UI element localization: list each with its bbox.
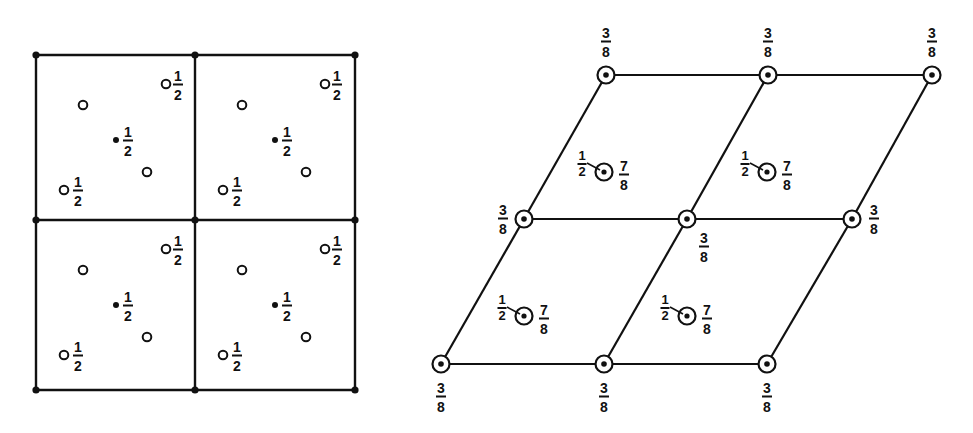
fraction-denominator: 2	[578, 166, 585, 178]
height-fraction-label: 12	[123, 290, 133, 323]
height-fraction-label: 12	[123, 125, 133, 158]
fraction-bar	[599, 396, 609, 398]
fraction-bar	[73, 190, 83, 192]
fraction-bar	[702, 318, 712, 320]
node-center-dot-icon	[438, 361, 444, 367]
node-center-dot-icon	[929, 72, 935, 78]
fraction-denominator: 8	[620, 178, 628, 192]
fraction-bar	[73, 355, 83, 357]
fraction-numerator: 3	[870, 203, 878, 217]
lattice-edge	[687, 75, 768, 219]
fraction-numerator: 7	[703, 303, 711, 317]
lattice-edge	[441, 219, 524, 364]
fraction-numerator: 1	[283, 290, 291, 304]
center-right-fraction-label: 78	[619, 159, 629, 192]
fraction-numerator: 1	[233, 175, 241, 189]
fraction-bar	[282, 305, 292, 307]
center-dot-icon	[521, 313, 526, 318]
center-left-fraction-label: 12	[741, 150, 750, 178]
fraction-numerator: 3	[499, 203, 507, 217]
lattice-edge	[767, 219, 852, 364]
height-fraction-label: 12	[282, 125, 292, 158]
fraction-bar	[539, 318, 549, 320]
fraction-denominator: 8	[764, 45, 772, 59]
fraction-denominator: 8	[870, 222, 878, 236]
fraction-numerator: 1	[741, 150, 748, 162]
fraction-numerator: 3	[700, 231, 708, 245]
fraction-numerator: 7	[620, 159, 628, 173]
fraction-bar	[173, 249, 183, 251]
fraction-bar	[232, 355, 242, 357]
fraction-denominator: 2	[333, 88, 341, 102]
height-fraction-label: 12	[173, 234, 183, 267]
height-fraction-label: 12	[173, 69, 183, 102]
fraction-denominator: 8	[499, 222, 507, 236]
fraction-numerator: 3	[764, 26, 772, 40]
height-fraction-label: 12	[232, 340, 242, 373]
node-height-fraction-label: 38	[498, 203, 508, 236]
fraction-numerator: 1	[174, 69, 182, 83]
center-left-fraction-label: 12	[578, 150, 587, 178]
rhombic-lattice-diagram	[0, 0, 973, 433]
height-fraction-label: 12	[73, 175, 83, 208]
node-center-dot-icon	[603, 72, 609, 78]
height-fraction-label: 12	[332, 234, 342, 267]
height-fraction-label: 12	[282, 290, 292, 323]
node-height-fraction-label: 38	[869, 203, 879, 236]
fraction-denominator: 8	[763, 400, 771, 414]
center-right-fraction-label: 78	[539, 303, 549, 336]
fraction-bar	[123, 140, 133, 142]
fraction-bar	[282, 140, 292, 142]
fraction-denominator: 8	[700, 250, 708, 264]
height-fraction-label: 12	[73, 340, 83, 373]
node-center-dot-icon	[601, 361, 607, 367]
fraction-bar	[436, 396, 446, 398]
fraction-bar	[782, 174, 792, 176]
node-center-dot-icon	[684, 216, 690, 222]
fraction-numerator: 1	[578, 150, 585, 162]
fraction-numerator: 1	[74, 175, 82, 189]
center-left-fraction-label: 12	[661, 294, 670, 322]
node-height-fraction-label: 38	[436, 381, 446, 414]
node-center-dot-icon	[765, 72, 771, 78]
lattice-edge	[852, 75, 932, 219]
crystal-lattice-figure: 1212121212121212121212123838383838383838…	[0, 0, 973, 433]
fraction-denominator: 2	[283, 309, 291, 323]
fraction-numerator: 1	[74, 340, 82, 354]
lattice-edge	[604, 219, 687, 364]
fraction-denominator: 8	[540, 322, 548, 336]
fraction-numerator: 7	[540, 303, 548, 317]
fraction-numerator: 1	[283, 125, 291, 139]
fraction-denominator: 8	[437, 400, 445, 414]
fraction-numerator: 3	[602, 26, 610, 40]
lattice-edge	[524, 75, 606, 219]
fraction-bar	[762, 396, 772, 398]
center-dot-icon	[684, 313, 689, 318]
fraction-denominator: 2	[174, 88, 182, 102]
fraction-denominator: 2	[74, 194, 82, 208]
node-center-dot-icon	[764, 361, 770, 367]
fraction-denominator: 2	[283, 144, 291, 158]
fraction-numerator: 3	[437, 381, 445, 395]
center-dot-icon	[601, 169, 606, 174]
fraction-denominator: 2	[233, 194, 241, 208]
node-height-fraction-label: 38	[762, 381, 772, 414]
fraction-denominator: 2	[661, 310, 668, 322]
fraction-bar	[601, 41, 611, 43]
node-center-dot-icon	[521, 216, 527, 222]
fraction-bar	[332, 249, 342, 251]
fraction-numerator: 1	[498, 294, 505, 306]
fraction-denominator: 8	[602, 45, 610, 59]
fraction-numerator: 1	[333, 234, 341, 248]
fraction-denominator: 8	[783, 178, 791, 192]
fraction-numerator: 1	[233, 340, 241, 354]
center-right-fraction-label: 78	[702, 303, 712, 336]
fraction-denominator: 2	[74, 359, 82, 373]
fraction-denominator: 2	[124, 144, 132, 158]
height-fraction-label: 12	[332, 69, 342, 102]
fraction-numerator: 1	[333, 69, 341, 83]
fraction-bar	[332, 84, 342, 86]
fraction-bar	[927, 41, 937, 43]
fraction-numerator: 3	[928, 26, 936, 40]
center-left-fraction-label: 12	[498, 294, 507, 322]
